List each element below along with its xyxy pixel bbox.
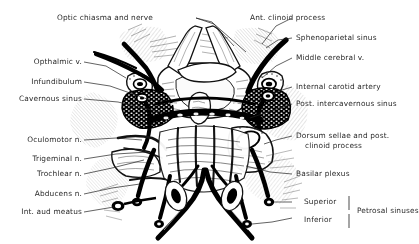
label-abducens-nerve: Abducens n.	[0, 189, 82, 198]
label-superior-petrosal: Superior	[304, 197, 336, 206]
label-infundibulum: Infundibulum	[0, 77, 82, 86]
label-opthalmic-vein: Opthalmic v.	[0, 57, 82, 66]
label-middle-cerebral-vein: Middle cerebral v.	[296, 53, 364, 62]
label-oculomotor-nerve: Oculomotor n.	[0, 135, 82, 144]
label-inferior-petrosal: Inferior	[304, 215, 332, 224]
label-ant-clinoid-process: Ant. clinoid process	[250, 13, 325, 22]
label-cavernous-sinus: Cavernous sinus	[0, 94, 82, 103]
label-post-intercavernous-sinus: Post. intercavernous sinus	[296, 99, 397, 108]
label-internal-carotid-artery: Internal carotid artery	[296, 82, 381, 91]
label-trochlear-nerve: Trochlear n.	[0, 169, 82, 178]
label-sphenoparietal-sinus: Sphenoparietal sinus	[296, 33, 377, 42]
label-dorsum-sellae-line1: Dorsum sellae and post.	[296, 131, 389, 140]
label-optic-chiasma: Optic chiasma and nerve	[57, 13, 153, 22]
label-basilar-plexus: Basilar plexus	[296, 169, 350, 178]
label-petrosal-sinuses: Petrosal sinuses	[357, 206, 419, 215]
label-trigeminal-nerve: Trigeminal n.	[0, 154, 82, 163]
label-dorsum-sellae-line2: clinoid process	[305, 141, 362, 150]
label-int-aud-meatus: Int. aud meatus	[0, 207, 82, 216]
